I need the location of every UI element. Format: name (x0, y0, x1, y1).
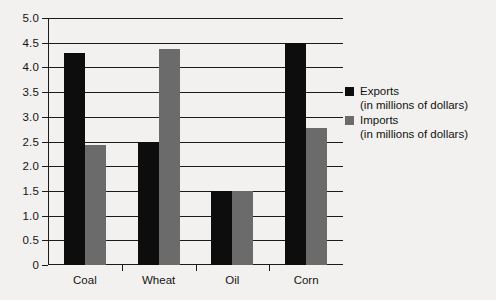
bar-corn-exports (285, 43, 306, 265)
y-tick-label: 4.0 (22, 61, 39, 73)
bar-coal-imports (85, 145, 106, 265)
y-tick-label: 0 (32, 259, 39, 271)
y-tick (42, 67, 48, 68)
y-tick (42, 18, 48, 19)
legend: Exports (in millions of dollars) Imports… (345, 84, 495, 142)
y-tick (42, 216, 48, 217)
y-tick-label: 5.0 (22, 12, 39, 24)
bar-chart: 00.51.01.52.02.53.03.54.04.55.0 CoalWhea… (0, 0, 496, 300)
y-tick-label: 3.0 (22, 111, 39, 123)
x-tick-label: Wheat (142, 274, 175, 286)
x-tick-label: Coal (73, 274, 97, 286)
y-tick-label: 1.5 (22, 185, 39, 197)
y-tick-label: 2.0 (22, 160, 39, 172)
bar-wheat-imports (159, 49, 180, 265)
y-tick (42, 142, 48, 143)
y-tick-label: 4.5 (22, 37, 39, 49)
legend-swatch-imports-icon (345, 116, 354, 125)
y-tick-label: 2.5 (22, 136, 39, 148)
y-tick (42, 43, 48, 44)
bar-oil-imports (232, 191, 253, 265)
bar-oil-exports (211, 191, 232, 265)
bar-wheat-exports (138, 142, 159, 266)
y-tick (42, 92, 48, 93)
legend-swatch-exports-icon (345, 87, 354, 96)
y-tick-label: 0.5 (22, 234, 39, 246)
y-tick (42, 265, 48, 266)
legend-label-exports: Exports (360, 84, 399, 98)
bar-corn-imports (306, 128, 327, 265)
legend-entry-exports: Exports (in millions of dollars) (345, 84, 495, 112)
legend-entry-imports: Imports (in millions of dollars) (345, 113, 495, 141)
gridline (48, 18, 343, 19)
x-tick (196, 265, 197, 271)
plot-area: 00.51.01.52.02.53.03.54.04.55.0 CoalWhea… (48, 18, 343, 265)
x-tick-label: Corn (294, 274, 319, 286)
y-tick (42, 240, 48, 241)
x-tick-label: Oil (225, 274, 239, 286)
y-tick-label: 1.0 (22, 210, 39, 222)
x-tick (269, 265, 270, 271)
y-tick-label: 3.5 (22, 86, 39, 98)
legend-sublabel-imports: (in millions of dollars) (360, 127, 495, 141)
x-tick (122, 265, 123, 271)
y-tick (42, 191, 48, 192)
y-tick (42, 166, 48, 167)
bar-coal-exports (64, 53, 85, 265)
legend-label-imports: Imports (360, 113, 398, 127)
y-tick (42, 117, 48, 118)
legend-sublabel-exports: (in millions of dollars) (360, 98, 495, 112)
